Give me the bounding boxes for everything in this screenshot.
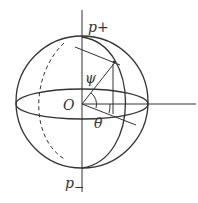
- psi-angle-arc: [91, 93, 97, 108]
- sphere-diagram: p+ p− ψ O θ: [0, 0, 198, 203]
- label-theta: θ: [94, 115, 103, 131]
- state-point: [113, 61, 116, 64]
- theta-angle-arc: [109, 104, 110, 113]
- label-origin: O: [63, 97, 75, 113]
- label-p-minus: p−: [65, 175, 84, 194]
- label-p-plus: p+: [88, 19, 109, 35]
- front-meridian: [82, 37, 126, 168]
- back-meridian-dashed: [39, 43, 66, 160]
- label-psi: ψ: [85, 70, 97, 86]
